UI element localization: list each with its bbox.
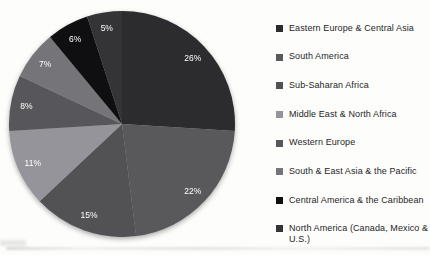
- legend-item: Central America & the Caribbean: [276, 186, 430, 215]
- pie-slice-label: 22%: [184, 186, 201, 196]
- legend-label: Middle East & North Africa: [289, 109, 430, 120]
- legend-item: Eastern Europe & Central Asia: [276, 14, 430, 43]
- legend-item: Sub-Saharan Africa: [276, 71, 430, 100]
- pie-slice: [122, 124, 235, 236]
- legend-label: Eastern Europe & Central Asia: [289, 23, 430, 34]
- legend-marker: [276, 197, 283, 204]
- legend-label: Central America & the Caribbean: [289, 195, 430, 206]
- legend-item: Middle East & North Africa: [276, 100, 430, 129]
- legend-label: South America: [289, 51, 430, 62]
- legend-marker: [276, 168, 283, 175]
- pie-slice-label: 6%: [69, 34, 82, 44]
- legend-marker: [276, 225, 283, 232]
- pie-slice-label: 11%: [25, 158, 42, 168]
- pie-slice: [122, 11, 235, 131]
- legend-label: Sub-Saharan Africa: [289, 80, 430, 91]
- legend-item: South & East Asia & the Pacific: [276, 157, 430, 186]
- legend-marker: [276, 82, 283, 89]
- chart-canvas: 26%22%15%11%8%7%6%5% Eastern Europe & Ce…: [0, 0, 430, 255]
- chart-legend: Eastern Europe & Central Asia South Amer…: [276, 14, 430, 244]
- pie-slice-label: 5%: [101, 23, 114, 33]
- legend-marker: [276, 111, 283, 118]
- legend-label: North America (Canada, Mexico & U.S.): [289, 223, 430, 246]
- legend-label: Western Europe: [289, 137, 430, 148]
- legend-item: North America (Canada, Mexico & U.S.): [276, 215, 430, 244]
- legend-marker: [276, 54, 283, 61]
- legend-label: South & East Asia & the Pacific: [289, 166, 430, 177]
- scan-artifact-line: [6, 247, 430, 250]
- pie-slice-label: 7%: [39, 59, 52, 69]
- pie-slice-label: 26%: [184, 53, 201, 63]
- pie-slice-label: 15%: [81, 210, 98, 220]
- legend-item: Western Europe: [276, 129, 430, 158]
- pie-slice-label: 8%: [20, 101, 33, 111]
- legend-item: South America: [276, 43, 430, 72]
- scan-smudge: [0, 240, 26, 246]
- legend-marker: [276, 140, 283, 147]
- legend-marker: [276, 25, 283, 32]
